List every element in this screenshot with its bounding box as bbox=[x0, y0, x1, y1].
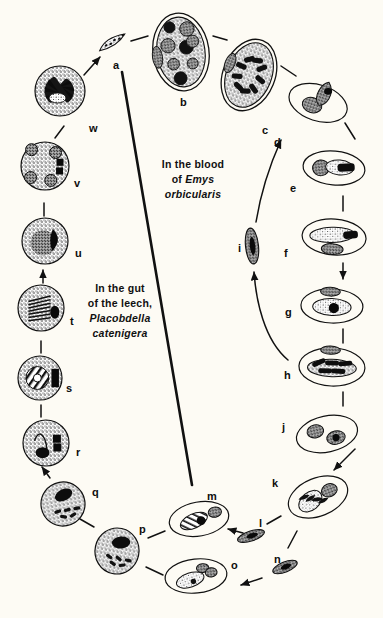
connector-c-to-d bbox=[281, 66, 296, 76]
stage-b bbox=[147, 9, 214, 94]
connector-m-to-p bbox=[148, 531, 165, 538]
stage-label-e: e bbox=[290, 183, 296, 194]
stage-label-k: k bbox=[272, 478, 278, 489]
stage-label-n: n bbox=[274, 554, 281, 565]
host-boundary-line bbox=[122, 72, 192, 485]
stage-label-i: i bbox=[238, 243, 241, 254]
stage-label-p: p bbox=[139, 524, 146, 535]
stage-u bbox=[22, 218, 68, 264]
connector-a-to-b bbox=[131, 36, 148, 41]
stage-label-m: m bbox=[207, 491, 217, 502]
stage-m bbox=[167, 497, 232, 541]
stage-label-l: l bbox=[259, 518, 262, 529]
caption-blood-host: In the blood of Emys orbicularis bbox=[150, 157, 236, 202]
stage-t bbox=[18, 285, 64, 331]
stage-label-q: q bbox=[92, 487, 99, 498]
stage-label-u: u bbox=[75, 248, 82, 259]
stage-label-o: o bbox=[231, 560, 238, 571]
connector-l-to-m bbox=[228, 529, 243, 533]
connector-k-to-l bbox=[267, 516, 281, 524]
stage-e bbox=[302, 148, 367, 187]
stage-label-a: a bbox=[113, 60, 119, 71]
caption-blood-species: orbicularis bbox=[165, 188, 221, 200]
connector-k-to-n bbox=[288, 531, 297, 548]
stage-w bbox=[35, 66, 85, 116]
connector-v-to-w bbox=[55, 126, 64, 138]
connector-d-to-e bbox=[345, 123, 355, 139]
stage-g bbox=[300, 286, 363, 324]
stage-j bbox=[293, 410, 361, 458]
stage-a bbox=[97, 32, 127, 53]
caption-gut-genus: Placobdella bbox=[89, 312, 150, 324]
stage-h bbox=[298, 345, 365, 387]
connector-n-to-o bbox=[241, 578, 262, 585]
stage-label-c: c bbox=[262, 125, 268, 136]
stage-label-f: f bbox=[284, 248, 288, 259]
caption-blood-line1: In the blood bbox=[162, 158, 225, 170]
caption-gut-host: In the gut of the leech, Placobdella cat… bbox=[68, 281, 172, 341]
connector-o-to-p bbox=[146, 567, 163, 575]
stage-k bbox=[282, 468, 354, 526]
stage-label-t: t bbox=[70, 316, 74, 327]
stage-label-r: r bbox=[76, 447, 80, 458]
caption-gut-line1: In the gut bbox=[95, 282, 145, 294]
stage-label-j: j bbox=[282, 422, 285, 433]
stage-p bbox=[91, 524, 144, 578]
caption-blood-genus: Emys bbox=[185, 173, 214, 185]
connector-h-to-i bbox=[254, 272, 288, 360]
life-cycle-figure bbox=[0, 0, 383, 618]
stage-label-s: s bbox=[66, 383, 72, 394]
connector-i-to-d bbox=[256, 140, 281, 222]
connector-j-to-k bbox=[334, 449, 355, 470]
stage-f bbox=[301, 217, 367, 257]
stage-c bbox=[210, 31, 287, 119]
connector-q-to-r bbox=[42, 467, 50, 478]
stage-o bbox=[163, 556, 228, 596]
caption-blood-of: of bbox=[172, 173, 186, 185]
stage-r bbox=[23, 420, 69, 466]
stage-label-w: w bbox=[89, 123, 98, 134]
stage-s bbox=[18, 356, 62, 400]
stage-label-g: g bbox=[285, 307, 292, 318]
stage-v bbox=[21, 142, 69, 190]
caption-gut-line2: of the leech, bbox=[88, 297, 153, 309]
stage-d bbox=[284, 72, 354, 130]
connector-w-to-a bbox=[84, 57, 100, 75]
stage-q bbox=[38, 479, 89, 530]
stage-label-d: d bbox=[274, 137, 281, 148]
caption-gut-species: catenigera bbox=[92, 327, 147, 339]
stage-label-h: h bbox=[284, 370, 291, 381]
stage-l bbox=[236, 527, 266, 545]
stage-i bbox=[244, 227, 261, 264]
stage-label-b: b bbox=[180, 97, 187, 108]
connector-b-to-c bbox=[213, 36, 227, 40]
stage-label-v: v bbox=[74, 178, 80, 189]
connector-p-to-q bbox=[80, 519, 94, 527]
